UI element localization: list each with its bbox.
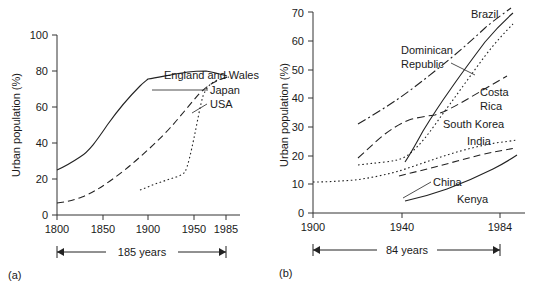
panel-a-axes: [57, 35, 240, 215]
panel-b-x-ticks: [313, 213, 500, 218]
panel-b-y-ticks: [308, 12, 313, 213]
label-india: India: [467, 135, 492, 147]
panel-b-ytick-40: 40: [292, 92, 304, 104]
panel-a-ytick-40: 40: [36, 137, 48, 149]
panel-a: 0 20 40 60 80 100 1800 1850 1900 1950 19…: [0, 0, 275, 287]
panel-b-xtick-1940: 1940: [390, 221, 414, 233]
panel-a-y-ticks: [52, 35, 57, 215]
panel-a-span-label: 185 years: [118, 246, 167, 258]
label-costa-rica-line2: Rica: [480, 100, 503, 112]
panel-b-ytick-10: 10: [292, 178, 304, 190]
panel-b-ytick-60: 60: [292, 35, 304, 47]
panel-b-y-axis-title: Urban population (%): [278, 63, 290, 167]
panel-a-span-arrow: 185 years: [57, 245, 226, 259]
label-japan: Japan: [210, 84, 240, 96]
label-usa: USA: [210, 98, 233, 110]
label-england-and-wales: England and Wales: [164, 69, 259, 81]
panel-a-x-ticks: [57, 215, 226, 220]
panel-b-ytick-20: 20: [292, 150, 304, 162]
label-china: China: [433, 176, 463, 188]
panel-a-ytick-20: 20: [36, 173, 48, 185]
label-dominican-republic-line2: Republic: [401, 58, 444, 70]
panel-b-ytick-30: 30: [292, 121, 304, 133]
label-dominican-republic-line1: Dominican: [401, 44, 453, 56]
panel-a-svg: 0 20 40 60 80 100 1800 1850 1900 1950 19…: [0, 0, 275, 287]
panel-a-xtick-1850: 1850: [91, 223, 115, 235]
panel-b-span-label: 84 years: [386, 244, 429, 256]
panel-b-ytick-0: 0: [298, 207, 304, 219]
panel-a-tag: (a): [8, 269, 21, 281]
panel-b-xtick-1984: 1984: [488, 221, 512, 233]
panel-a-ytick-100: 100: [30, 29, 48, 41]
leader-dominican-republic: [451, 63, 475, 75]
panel-a-xtick-1950: 1950: [182, 223, 206, 235]
panel-a-xtick-1800: 1800: [45, 223, 69, 235]
panel-a-ytick-0: 0: [42, 209, 48, 221]
panel-a-ytick-60: 60: [36, 101, 48, 113]
panel-b: 0 10 20 30 40 50 60 70 1900 1940 1984 Ur…: [275, 0, 551, 287]
panel-b-tag: (b): [279, 267, 292, 279]
panel-a-ytick-80: 80: [36, 65, 48, 77]
label-kenya: Kenya: [457, 193, 489, 205]
label-costa-rica-line1: Costa: [480, 86, 510, 98]
panel-b-span-arrow: 84 years: [313, 243, 500, 257]
panel-b-ytick-70: 70: [292, 7, 304, 19]
label-brazil: Brazil: [471, 8, 499, 20]
panel-b-ytick-50: 50: [292, 64, 304, 76]
panel-b-axes: [313, 12, 525, 213]
curve-japan: [57, 77, 228, 203]
panel-b-xtick-1900: 1900: [301, 221, 325, 233]
panel-a-y-axis-title: Urban population (%): [10, 73, 22, 177]
panel-a-xtick-1985: 1985: [214, 223, 238, 235]
panel-b-svg: 0 10 20 30 40 50 60 70 1900 1940 1984 Ur…: [275, 0, 551, 287]
label-south-korea: South Korea: [443, 118, 505, 130]
panel-a-xtick-1900: 1900: [136, 223, 160, 235]
figure-urban-population: 0 20 40 60 80 100 1800 1850 1900 1950 19…: [0, 0, 551, 287]
